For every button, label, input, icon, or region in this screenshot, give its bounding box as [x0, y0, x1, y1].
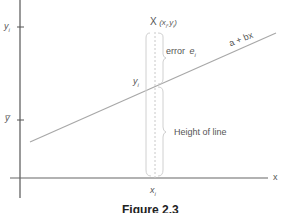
height-of-line-label: Height of line [174, 128, 227, 137]
x-i-label-sub: i [155, 191, 156, 197]
error-label: error ei [166, 47, 196, 58]
x-axis-label: x [273, 173, 278, 182]
x-i-label: xi [150, 186, 156, 197]
y-i-axis-label: yi [4, 22, 10, 33]
figure-caption: Figure 2.3 [122, 203, 179, 213]
error-sub: i [195, 52, 196, 58]
error-brace [158, 33, 166, 84]
height-brace [158, 87, 166, 176]
y-bar-axis-label: y̅ [5, 114, 10, 123]
height-of-line-text: Height of line [174, 127, 227, 137]
regression-line [30, 33, 276, 142]
fitted-y-sub: i [138, 82, 139, 88]
coord-open: (x [159, 18, 166, 27]
error-label-text: error [166, 46, 185, 56]
y-i-axis-label-sub: i [9, 27, 10, 33]
coord-close: ) [174, 18, 177, 27]
fitted-y-label: yi [133, 77, 139, 88]
left-brace [146, 33, 151, 176]
data-point-marker: X [150, 16, 157, 27]
data-point-label: X (xi,yi) [150, 17, 177, 29]
data-point-coords: (xi,yi) [159, 18, 177, 27]
x-axis-label-text: x [273, 172, 278, 182]
y-bar-axis-label-main: y̅ [5, 113, 10, 123]
